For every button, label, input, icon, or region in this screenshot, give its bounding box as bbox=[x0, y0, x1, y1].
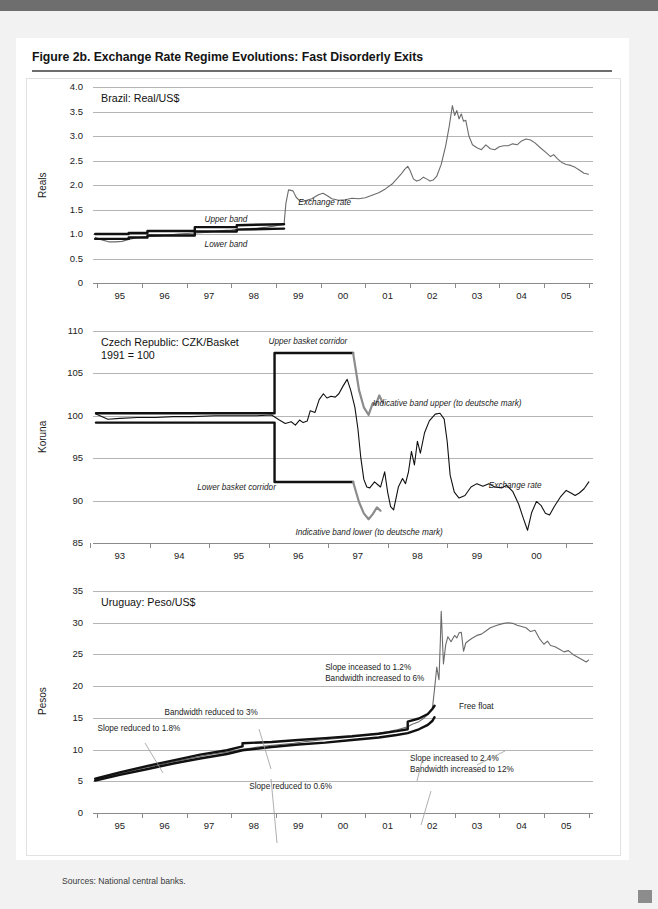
leader-line bbox=[417, 761, 422, 781]
source-note: Sources: National central banks. bbox=[62, 876, 186, 886]
page-header-band bbox=[0, 0, 658, 11]
figure-title: Figure 2b. Exchange Rate Regime Evolutio… bbox=[32, 50, 423, 64]
leader-line bbox=[421, 791, 431, 825]
leader-line bbox=[145, 743, 163, 773]
annotation-leader-lines bbox=[27, 79, 620, 855]
leader-line bbox=[271, 779, 277, 843]
title-rule bbox=[32, 70, 612, 72]
page-background: Figure 2b. Exchange Rate Regime Evolutio… bbox=[0, 0, 658, 909]
leader-line bbox=[477, 751, 505, 765]
page-corner-mark bbox=[638, 890, 652, 903]
figure-panel: Figure 2b. Exchange Rate Regime Evolutio… bbox=[16, 38, 629, 860]
leader-line bbox=[259, 729, 271, 769]
charts-container: 4.03.53.02.52.01.51.00.50Reals9596979899… bbox=[26, 78, 621, 856]
chart-uruguay: 35302520151050Pesos959697989900010203040… bbox=[27, 79, 620, 855]
